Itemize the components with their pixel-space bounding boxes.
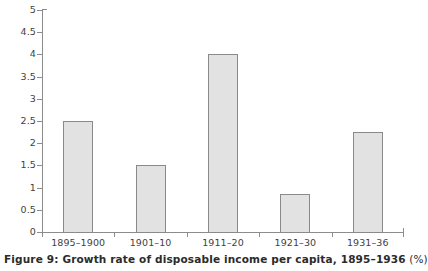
y-axis-tick-mark	[37, 54, 42, 55]
y-axis-tick-label: 0.5	[2, 205, 36, 215]
x-axis-tick-label: 1901–10	[114, 237, 186, 248]
y-axis-tick-label: 5	[2, 5, 36, 15]
x-axis-tick-label: 1931–36	[332, 237, 404, 248]
y-axis-tick-mark	[37, 121, 42, 122]
y-axis-tick-label: 3	[2, 94, 36, 104]
bar	[136, 165, 166, 233]
y-axis-tick-mark	[37, 32, 42, 33]
y-axis-tick-label: 4.5	[2, 27, 36, 37]
y-axis-tick-mark	[37, 10, 42, 11]
bar	[208, 54, 238, 233]
figure-caption-unit-value: (%)	[409, 253, 428, 265]
y-axis-tick-mark	[37, 188, 42, 189]
y-axis-tick-mark	[37, 143, 42, 144]
y-axis-line	[42, 9, 43, 233]
y-axis-tick-label: 2.5	[2, 116, 36, 126]
x-axis-tick-label: 1921–30	[259, 237, 331, 248]
figure-caption: Figure 9: Growth rate of disposable inco…	[4, 252, 410, 266]
y-axis-tick-mark	[37, 210, 42, 211]
y-axis-tick-label: 4	[2, 49, 36, 59]
chart-plot-area: 00.511.522.533.544.55 1895–19001901–1019…	[0, 0, 414, 248]
y-axis-tick-mark	[37, 165, 42, 166]
y-axis-tick-label: 0	[2, 227, 36, 237]
x-axis-tick-mark	[403, 232, 404, 237]
x-axis-tick-label: 1895–1900	[42, 237, 114, 248]
y-axis-top-cap	[42, 9, 47, 10]
bar	[280, 194, 310, 233]
y-axis-tick-label: 2	[2, 138, 36, 148]
x-axis-tick-label: 1911–20	[187, 237, 259, 248]
y-axis-tick-mark	[37, 99, 42, 100]
figure-caption-text: Figure 9: Growth rate of disposable inco…	[4, 253, 406, 265]
bar	[63, 121, 93, 233]
bar	[353, 132, 383, 233]
y-axis-tick-label: 3.5	[2, 72, 36, 82]
y-axis-tick-label: 1	[2, 183, 36, 193]
y-axis-tick-mark	[37, 77, 42, 78]
y-axis-tick-label: 1.5	[2, 160, 36, 170]
